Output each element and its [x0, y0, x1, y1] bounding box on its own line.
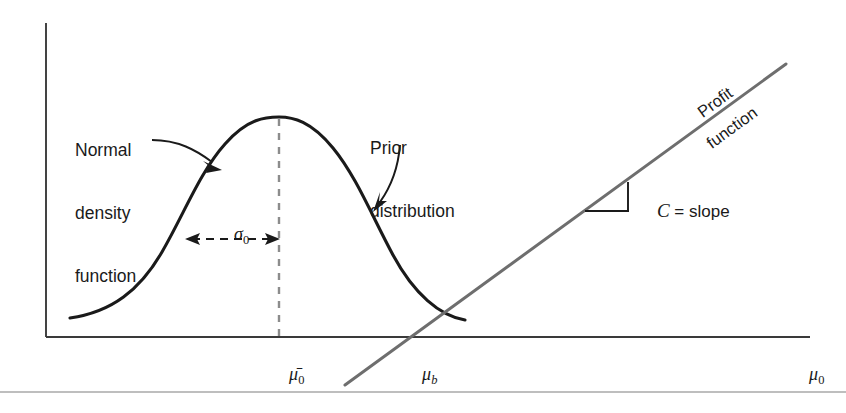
annotation-normal-density-line-2: density	[75, 203, 136, 224]
annotation-prior-distribution-line-1: Prior	[370, 138, 455, 159]
annotation-prior-distribution: Prior distribution	[370, 96, 455, 264]
mean-mu-bar-symbol: μ̄	[289, 364, 298, 384]
sigma-symbol: σ	[234, 224, 243, 244]
breakeven-mu-symbol: μ	[422, 364, 431, 384]
annotation-prior-distribution-line-2: distribution	[370, 201, 455, 222]
sigma-subscript: 0	[243, 233, 249, 247]
x-axis-label-mu-zero: μ0	[791, 343, 824, 409]
annotation-sigma-zero: σ0	[216, 203, 249, 269]
slope-symbol-c: C	[657, 200, 670, 221]
x-axis-mu-subscript: 0	[818, 373, 824, 387]
annotation-normal-density-line-3: function	[75, 266, 136, 287]
tick-label-mean-mu-bar-zero: μ̄0	[271, 343, 304, 409]
breakeven-mu-subscript: b	[431, 373, 437, 387]
x-axis-mu-symbol: μ	[809, 364, 818, 384]
figure-normal-prior-profit-function: Normal density function Prior distributi…	[0, 0, 846, 413]
annotation-normal-density-function: Normal density function	[75, 98, 136, 329]
mean-mu-bar-subscript: 0	[298, 373, 304, 387]
slope-equals-text: = slope	[670, 202, 730, 221]
annotation-normal-density-line-1: Normal	[75, 140, 136, 161]
tick-label-breakeven-mu-b: μb	[404, 343, 437, 409]
annotation-slope-label: C = slope	[638, 180, 730, 242]
normal-density-leader-arrow	[152, 140, 222, 173]
